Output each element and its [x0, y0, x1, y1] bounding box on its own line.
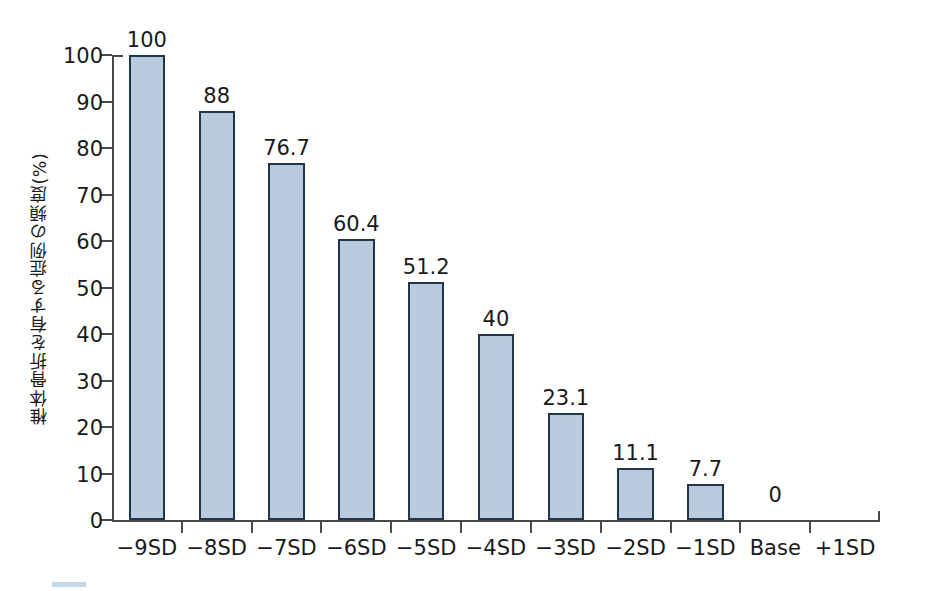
x-axis-label-−5SD: −5SD: [396, 536, 456, 560]
x-tick-mark: [600, 522, 602, 533]
x-tick-mark: [251, 522, 253, 533]
caption-strip: [0, 578, 929, 591]
bar-value-label: 60.4: [333, 212, 380, 236]
bar-value-label: 100: [127, 28, 167, 52]
bar-−7SD: 76.7: [268, 163, 304, 520]
y-tick-label: 60: [76, 230, 103, 254]
x-axis-label-Base: Base: [750, 536, 801, 560]
x-axis-label-−1SD: −1SD: [675, 536, 735, 560]
bar-−4SD: 40: [478, 334, 514, 520]
bar-−1SD: 7.7: [687, 484, 723, 520]
x-axis-right-cap: [878, 511, 880, 522]
bar-value-label: 76.7: [263, 136, 310, 160]
y-axis-title: 椎体骨折を有する症例の頻度(%): [22, 55, 56, 522]
x-axis-label-−9SD: −9SD: [117, 536, 177, 560]
bar-−9SD: 100: [129, 55, 165, 520]
x-tick-mark: [181, 522, 183, 533]
x-tick-mark: [460, 522, 462, 533]
y-tick-label: 50: [76, 277, 103, 301]
bar-value-label: 11.1: [612, 441, 659, 465]
y-tick-label: 90: [76, 91, 103, 115]
bar-−8SD: 88: [199, 111, 235, 520]
plot-area: 0102030405060708090100 1008876.760.451.2…: [112, 55, 880, 522]
x-axis-label-−2SD: −2SD: [605, 536, 665, 560]
y-tick-label: 10: [76, 463, 103, 487]
bar-−2SD: 11.1: [617, 468, 653, 520]
bar-−3SD: 23.1: [548, 413, 584, 520]
x-axis-label-+1SD: +1SD: [815, 536, 875, 560]
bar-−5SD: 51.2: [408, 282, 444, 520]
bar-value-label: 0: [769, 483, 782, 507]
x-axis-label-−8SD: −8SD: [186, 536, 246, 560]
x-tick-mark: [530, 522, 532, 533]
bar-value-label: 51.2: [403, 255, 450, 279]
x-tick-mark: [320, 522, 322, 533]
bar-value-label: 23.1: [542, 386, 589, 410]
y-tick-label: 80: [76, 137, 103, 161]
x-axis-label-−6SD: −6SD: [326, 536, 386, 560]
y-axis-line: [112, 55, 114, 522]
y-axis-top-cap: [112, 55, 123, 57]
bar-−6SD: 60.4: [338, 239, 374, 520]
x-axis-label-−4SD: −4SD: [466, 536, 526, 560]
x-axis-line: [112, 520, 880, 522]
x-tick-mark: [390, 522, 392, 533]
bar-value-label: 40: [483, 307, 510, 331]
bar-value-label: 7.7: [689, 457, 722, 481]
y-tick-label: 0: [90, 509, 103, 533]
bar-value-label: 88: [203, 84, 230, 108]
x-tick-mark: [739, 522, 741, 533]
y-tick-label: 20: [76, 416, 103, 440]
bar-chart: 椎体骨折を有する症例の頻度(%) 0102030405060708090100 …: [0, 0, 929, 591]
y-tick-label: 70: [76, 184, 103, 208]
y-tick-label: 30: [76, 370, 103, 394]
caption-accent-swatch: [52, 582, 86, 587]
y-tick-label: 100: [63, 44, 103, 68]
x-tick-mark: [809, 522, 811, 533]
x-tick-mark: [670, 522, 672, 533]
x-axis-label-−7SD: −7SD: [256, 536, 316, 560]
y-tick-label: 40: [76, 323, 103, 347]
x-axis-label-−3SD: −3SD: [536, 536, 596, 560]
